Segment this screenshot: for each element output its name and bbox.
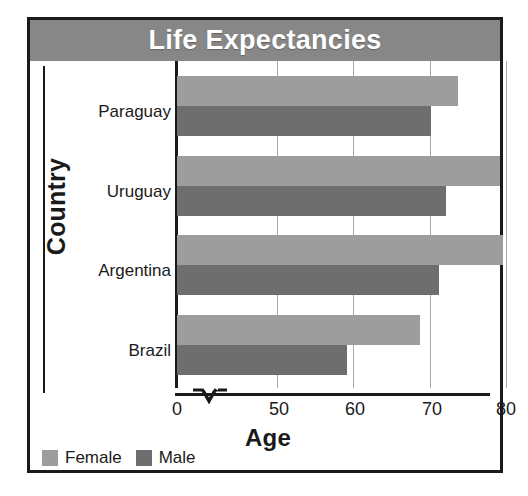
x-tick-label-60: 60 (345, 400, 365, 418)
bar-paraguay-male (177, 106, 431, 136)
y-tick-label-argentina: Argentina (98, 262, 171, 279)
page-title: Life Expectancies (148, 25, 381, 56)
x-tick-label-50: 50 (269, 400, 289, 418)
x-tick-label-80: 80 (496, 400, 516, 418)
legend-item-female: Female (42, 449, 122, 466)
x-tick-label-0: 0 (172, 400, 182, 418)
chart-figure: Life Expectancies Country Paraguay Urugu… (27, 17, 503, 473)
legend-item-male: Male (136, 449, 196, 466)
gridline-80 (506, 61, 507, 388)
y-tick-label-uruguay: Uruguay (107, 183, 171, 200)
legend-swatch-male-icon (136, 450, 152, 466)
axis-break-icon (193, 387, 227, 405)
bar-argentina-male (177, 265, 439, 295)
chart-title-banner: Life Expectancies (30, 20, 500, 61)
bar-uruguay-male (177, 186, 446, 216)
bar-uruguay-female (177, 156, 500, 186)
legend-label-male: Male (159, 449, 196, 466)
bar-brazil-male (177, 345, 347, 375)
bars-canvas (175, 66, 490, 388)
x-tick-label-70: 70 (422, 400, 442, 418)
y-tick-label-brazil: Brazil (128, 342, 171, 359)
y-tick-label-paraguay: Paraguay (98, 103, 171, 120)
legend-label-female: Female (65, 449, 122, 466)
bar-argentina-female (177, 235, 503, 265)
y-axis-tick-labels: Paraguay Uruguay Argentina Brazil (60, 61, 171, 388)
bar-brazil-female (177, 315, 420, 345)
bar-paraguay-female (177, 76, 458, 106)
legend-swatch-female-icon (42, 450, 58, 466)
chart-legend: Female Male (42, 449, 196, 466)
plot-area: Country Paraguay Uruguay Argentina Brazi… (30, 61, 506, 473)
